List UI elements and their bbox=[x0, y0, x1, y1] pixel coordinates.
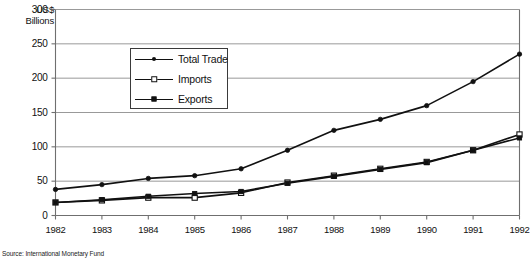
data-point-total-trade bbox=[239, 167, 243, 171]
y-tick-label: 0 bbox=[14, 211, 48, 221]
data-point-exports bbox=[146, 194, 150, 198]
x-tick-label: 1987 bbox=[266, 225, 310, 235]
data-point-exports bbox=[239, 189, 243, 193]
x-tick-label: 1986 bbox=[219, 225, 263, 235]
x-tick-label: 1988 bbox=[312, 225, 356, 235]
data-point-total-trade bbox=[517, 52, 521, 56]
legend-item-imports: Imports bbox=[131, 69, 229, 89]
chart-legend: Total Trade Imports Exports bbox=[130, 48, 228, 109]
chart-figure: US$ Billions 300250200150100500 19821983… bbox=[0, 0, 530, 260]
x-tick-label: 1992 bbox=[498, 225, 530, 235]
data-point-exports bbox=[53, 200, 57, 204]
data-point-total-trade bbox=[471, 79, 475, 83]
data-point-exports bbox=[425, 161, 429, 165]
data-point-exports bbox=[193, 191, 197, 195]
data-point-total-trade bbox=[146, 176, 150, 180]
data-point-total-trade bbox=[100, 182, 104, 186]
data-point-total-trade bbox=[193, 173, 197, 177]
data-point-exports bbox=[378, 167, 382, 171]
series-line-exports bbox=[56, 138, 520, 203]
data-point-total-trade bbox=[332, 128, 336, 132]
y-tick-label: 250 bbox=[14, 39, 48, 49]
data-point-exports bbox=[517, 136, 521, 140]
series-line-total-trade bbox=[56, 54, 520, 189]
data-point-total-trade bbox=[378, 117, 382, 121]
legend-item-exports: Exports bbox=[131, 89, 229, 109]
open-square-marker-icon bbox=[135, 73, 173, 85]
dot-marker-icon bbox=[135, 53, 173, 65]
plot-area bbox=[0, 0, 530, 260]
source-note: Source: International Monetary Fund bbox=[2, 250, 104, 257]
y-tick-label: 100 bbox=[14, 142, 48, 152]
x-tick-label: 1990 bbox=[405, 225, 449, 235]
legend-label-imports: Imports bbox=[178, 73, 212, 85]
x-tick-label: 1985 bbox=[173, 225, 217, 235]
data-point-total-trade bbox=[53, 187, 57, 191]
y-tick-label: 200 bbox=[14, 73, 48, 83]
data-point-exports bbox=[332, 174, 336, 178]
x-tick-label: 1983 bbox=[80, 225, 124, 235]
x-tick-label: 1982 bbox=[34, 225, 78, 235]
data-point-total-trade bbox=[285, 148, 289, 152]
series-line-imports bbox=[56, 134, 520, 202]
y-tick-label: 150 bbox=[14, 108, 48, 118]
data-point-total-trade bbox=[425, 103, 429, 107]
x-tick-label: 1984 bbox=[126, 225, 170, 235]
legend-label-exports: Exports bbox=[178, 93, 212, 105]
data-point-exports bbox=[285, 181, 289, 185]
y-tick-label: 50 bbox=[14, 176, 48, 186]
data-point-exports bbox=[100, 198, 104, 202]
filled-square-marker-icon bbox=[135, 93, 173, 105]
legend-item-total-trade: Total Trade bbox=[131, 49, 229, 69]
x-tick-label: 1989 bbox=[358, 225, 402, 235]
x-tick-label: 1991 bbox=[451, 225, 495, 235]
legend-label-total-trade: Total Trade bbox=[178, 53, 228, 65]
data-point-exports bbox=[471, 148, 475, 152]
y-tick-label: 300 bbox=[14, 5, 48, 15]
